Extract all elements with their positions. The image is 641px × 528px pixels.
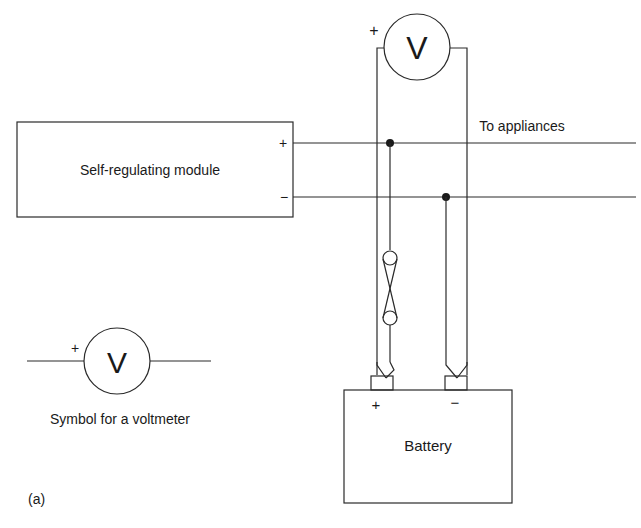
battery: + − Battery [344,376,512,503]
to-appliances-label: To appliances [479,118,565,134]
figure-label: (a) [28,491,45,507]
positive-branch [377,143,397,378]
legend-caption: Symbol for a voltmeter [50,411,190,427]
legend-voltmeter-letter: V [107,346,127,379]
battery-label: Battery [404,437,452,454]
battery-positive-terminal [371,376,393,390]
voltmeter-positive-lead [377,48,384,375]
voltmeter-negative-lead [450,48,467,375]
self-regulating-module: Self-regulating module + − [17,122,293,217]
module-minus-terminal: − [280,189,288,205]
circuit-diagram: V + Self-regulating module + − To applia… [0,0,641,528]
negative-branch [446,197,467,378]
legend-plus-sign: + [71,340,79,356]
voltmeter-legend: V + Symbol for a voltmeter [27,328,211,427]
battery-plus-sign: + [372,396,381,413]
module-label: Self-regulating module [80,162,220,178]
battery-minus-sign: − [451,394,460,411]
voltmeter-letter: V [406,30,428,66]
battery-negative-terminal [445,376,467,390]
lamp-icon [383,251,397,325]
voltmeter-plus-sign: + [369,22,378,39]
module-plus-terminal: + [279,135,287,151]
